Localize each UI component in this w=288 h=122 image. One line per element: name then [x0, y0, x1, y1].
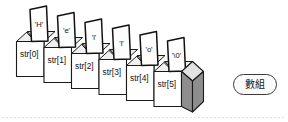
cell-5-index-label: str[5] [158, 79, 177, 89]
cell-3-char-label: 'l' [119, 39, 124, 48]
array-diagram: 'H' str[0] 'e' str[1] 'l' str[2] [0, 0, 288, 122]
cell-4-index-label: str[4] [130, 73, 149, 83]
cell-0-index-label: str[0] [20, 49, 39, 59]
array-label-badge[interactable]: 數組 [233, 74, 277, 95]
cell-4-char-label: 'o' [145, 45, 153, 54]
cell-0-char-label: 'H' [35, 20, 44, 29]
cell-1-index-label: str[1] [48, 55, 67, 65]
cell-2-index-label: str[2] [75, 61, 94, 71]
array-end-cap [182, 62, 204, 113]
cell-3-index-label: str[3] [103, 67, 122, 77]
diagram-canvas: 'H' str[0] 'e' str[1] 'l' str[2] [0, 0, 288, 122]
cell-1-char-label: 'e' [63, 26, 71, 35]
array-label-badge-text: 數組 [245, 80, 266, 90]
cell-5-char-label: '\0' [172, 51, 182, 60]
cell-2-char-label: 'l' [92, 33, 97, 42]
